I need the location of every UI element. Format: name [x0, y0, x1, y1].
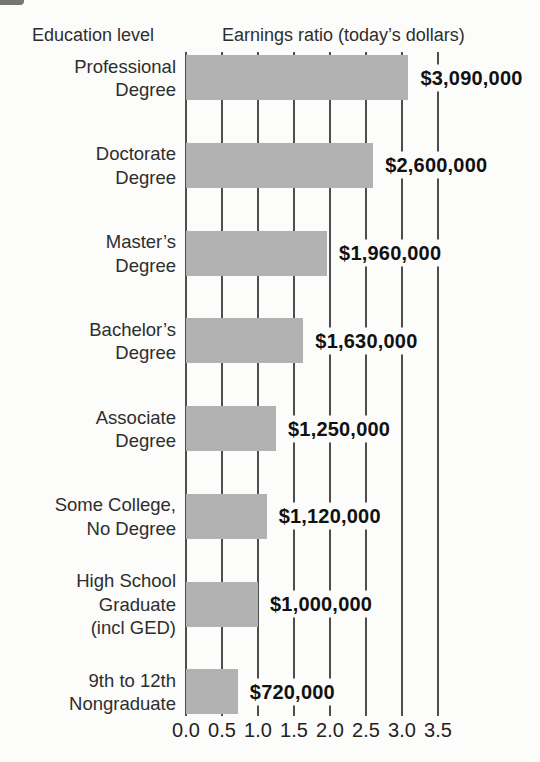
x-tick-label: 1.5	[280, 719, 308, 742]
category-label: Master’s Degree	[0, 230, 176, 277]
bar	[186, 406, 276, 451]
category-label: Some College, No Degree	[0, 493, 176, 540]
value-label: $2,600,000	[382, 152, 490, 179]
bar	[186, 318, 303, 363]
x-tick-label: 2.0	[316, 719, 344, 742]
category-label: Professional Degree	[0, 54, 176, 101]
x-tick-label: 3.0	[388, 719, 416, 742]
plot-area: 0.00.51.01.52.02.53.03.5Professional Deg…	[0, 0, 540, 762]
bar	[186, 55, 408, 100]
x-tick-label: 2.5	[352, 719, 380, 742]
value-label: $1,120,000	[276, 503, 384, 530]
value-label: $1,250,000	[285, 415, 393, 442]
bar	[186, 231, 327, 276]
x-tick-label: 0.5	[208, 719, 236, 742]
bar	[186, 582, 258, 627]
x-tick-label: 3.5	[424, 719, 452, 742]
value-label: $1,000,000	[267, 591, 375, 618]
category-label: High School Graduate (incl GED)	[0, 569, 176, 640]
category-label: 9th to 12th Nongraduate	[0, 668, 176, 715]
value-label: $3,090,000	[417, 64, 525, 91]
x-tick-label: 0.0	[172, 719, 200, 742]
category-label: Doctorate Degree	[0, 142, 176, 189]
value-label: $1,630,000	[312, 327, 420, 354]
bar	[186, 143, 373, 188]
x-tick-label: 1.0	[244, 719, 272, 742]
bar	[186, 494, 267, 539]
category-label: Bachelor’s Degree	[0, 317, 176, 364]
value-label: $720,000	[247, 678, 338, 705]
value-label: $1,960,000	[336, 240, 444, 267]
bar	[186, 669, 238, 714]
category-label: Associate Degree	[0, 405, 176, 452]
earnings-bar-chart-figure: Education level Earnings ratio (today’s …	[0, 0, 540, 762]
